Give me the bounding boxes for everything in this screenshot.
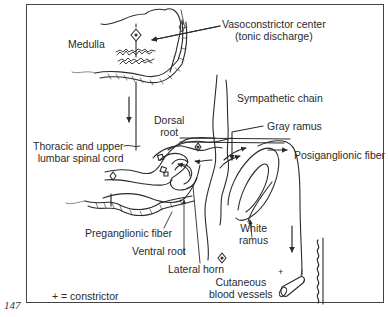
label-dorsal-line2: root bbox=[154, 126, 184, 138]
label-vasoconstrictor-line1: Vasoconstrictor center bbox=[222, 18, 326, 30]
label-dorsal-line1: Dorsal bbox=[154, 114, 184, 126]
label-white-line2: ramus bbox=[239, 234, 268, 246]
label-ventral-root: Ventral root bbox=[132, 245, 186, 257]
dorsal-root-ganglion bbox=[168, 138, 232, 151]
label-medulla: Medulla bbox=[68, 38, 105, 50]
label-cutaneous-line2: blood vessels bbox=[209, 288, 273, 300]
label-preganglionic-fiber: Preganglionic fiber bbox=[85, 227, 172, 239]
label-sympathetic-chain: Sympathetic chain bbox=[237, 92, 323, 104]
label-white-line1: White bbox=[239, 222, 268, 234]
page-number: 147 bbox=[4, 299, 21, 311]
skin-surface bbox=[317, 238, 323, 304]
label-vasoconstrictor-line2: (tonic discharge) bbox=[222, 30, 326, 42]
label-spinal-cord: Thoracic and upper lumbar spinal cord bbox=[33, 140, 123, 164]
label-cutaneous-line1: Cutaneous bbox=[209, 276, 273, 288]
spinal-neuron-icon bbox=[110, 172, 116, 180]
label-cutaneous-blood-vessels: Cutaneous blood vessels bbox=[209, 276, 273, 300]
gray-matter bbox=[153, 146, 222, 190]
label-white-ramus: White ramus bbox=[239, 222, 268, 246]
label-lateral-horn: Lateral horn bbox=[168, 263, 224, 275]
sympathetic-chain bbox=[205, 75, 229, 260]
label-postganglionic-fiber: Posiganglionic fiber bbox=[294, 149, 385, 161]
label-spinal-line1: Thoracic and upper bbox=[33, 140, 123, 152]
label-vasoconstrictor-center: Vasoconstrictor center (tonic discharge) bbox=[222, 18, 326, 42]
legend-constrictor: + = constrictor bbox=[52, 290, 119, 302]
label-dorsal-root: Dorsal root bbox=[154, 114, 184, 138]
label-vessel-plus: + bbox=[278, 266, 283, 278]
label-spinal-line2: lumbar spinal cord bbox=[33, 152, 123, 164]
label-gray-ramus: Gray ramus bbox=[267, 120, 322, 132]
